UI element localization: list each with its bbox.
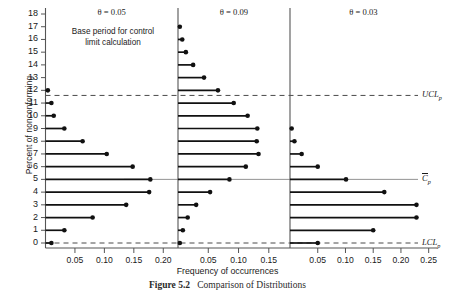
stem-marker: [231, 101, 236, 106]
x-tick-label: 0.05: [192, 256, 224, 265]
stem-marker: [104, 152, 109, 157]
stem-marker: [299, 152, 304, 157]
ucl-label-subscript: p: [439, 94, 442, 101]
y-tick-label: 18: [14, 9, 38, 18]
stem-marker: [181, 228, 186, 233]
ucl-label: UCLp: [422, 89, 442, 101]
y-tick-label: 16: [14, 34, 38, 43]
stem-marker: [178, 24, 183, 29]
stem-marker: [414, 203, 419, 208]
y-tick-label: 1: [14, 225, 38, 234]
stem-marker: [256, 152, 261, 157]
stem-marker: [254, 139, 259, 144]
lcl-label: LCLp: [422, 237, 440, 249]
stem-marker: [49, 241, 54, 246]
y-tick-label: 0: [14, 238, 38, 247]
x-tick-label: 0.15: [118, 256, 150, 265]
stem-marker: [371, 228, 376, 233]
stem-marker: [227, 177, 232, 182]
stem-marker: [62, 228, 67, 233]
x-tick-label: 0.25: [413, 256, 445, 265]
y-tick-label: 7: [14, 149, 38, 158]
x-tick-label: 0.10: [223, 256, 255, 265]
stem-marker: [46, 88, 51, 93]
stem-marker: [245, 113, 250, 118]
stem-marker: [147, 190, 152, 195]
stem-marker: [255, 126, 260, 131]
stem-marker: [414, 215, 419, 220]
stem-marker: [124, 203, 129, 208]
lcl-label-subscript: p: [437, 242, 440, 249]
stem-marker: [289, 126, 294, 131]
y-tick-label: 12: [14, 85, 38, 94]
panel-theta-label: θ = 0.03: [290, 8, 437, 17]
stem-marker: [191, 63, 196, 68]
stem-marker: [130, 164, 135, 169]
y-tick-label: 4: [14, 187, 38, 196]
y-tick-label: 15: [14, 47, 38, 56]
cl-label: Cp: [422, 173, 431, 185]
figure-comparison-of-distributions: Percent of nonconforming Frequency of oc…: [0, 0, 455, 290]
stem-marker: [185, 215, 190, 220]
x-tick-label: 0.15: [253, 256, 285, 265]
y-tick-label: 8: [14, 136, 38, 145]
lcl-label-text: LCL: [422, 237, 437, 247]
stem-marker: [244, 164, 249, 169]
ucl-label-text: UCL: [422, 89, 439, 99]
stem-marker: [178, 241, 183, 246]
base-period-note-line2: limit calculation: [52, 37, 174, 48]
stem-marker: [180, 37, 185, 42]
stem-marker: [62, 126, 67, 131]
y-tick-label: 17: [14, 22, 38, 31]
y-tick-label: 2: [14, 213, 38, 222]
y-tick-label: 13: [14, 73, 38, 82]
stem-marker: [90, 215, 95, 220]
caption-number: Figure 5.2: [149, 280, 190, 290]
base-period-note: Base period for controllimit calculation: [52, 26, 174, 48]
y-tick-label: 14: [14, 60, 38, 69]
y-tick-label: 10: [14, 111, 38, 120]
stem-marker: [315, 241, 320, 246]
stem-marker: [382, 190, 387, 195]
stem-marker: [344, 177, 349, 182]
cl-label-subscript: p: [428, 178, 431, 185]
x-tick-label: 0.10: [88, 256, 120, 265]
x-tick-label: 0.20: [147, 256, 179, 265]
stem-marker: [208, 190, 213, 195]
stem-marker: [315, 164, 320, 169]
panel-theta-label: θ = 0.05: [46, 8, 179, 17]
y-tick-label: 6: [14, 162, 38, 171]
stem-marker: [216, 88, 221, 93]
stem-marker: [148, 177, 153, 182]
stem-marker: [49, 101, 54, 106]
caption-text: Comparison of Distributions: [197, 280, 306, 290]
base-period-note-line1: Base period for control: [52, 26, 174, 37]
stem-marker: [194, 203, 199, 208]
stem-marker: [184, 50, 189, 55]
x-axis-title: Frequency of occurrences: [0, 266, 455, 276]
stem-marker: [202, 75, 207, 80]
x-tick-label: 0.05: [59, 256, 91, 265]
y-tick-label: 11: [14, 98, 38, 107]
stem-marker: [80, 139, 85, 144]
y-tick-label: 9: [14, 124, 38, 133]
y-tick-label: 5: [14, 174, 38, 183]
panel-theta-label: θ = 0.09: [178, 8, 290, 17]
y-tick-label: 3: [14, 200, 38, 209]
stem-marker: [51, 113, 56, 118]
stem-marker: [292, 139, 297, 144]
figure-caption: Figure 5.2 Comparison of Distributions: [0, 280, 455, 290]
